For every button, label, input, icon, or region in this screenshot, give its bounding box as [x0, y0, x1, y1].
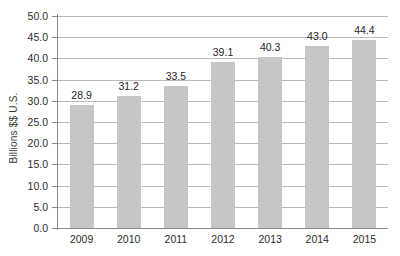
bar-value-label: 40.3	[260, 41, 280, 53]
bar	[70, 105, 94, 228]
gridline	[58, 228, 388, 229]
bar	[211, 62, 235, 228]
y-tick-label: 0.0	[2, 222, 48, 234]
y-tick-label: 45.0	[2, 31, 48, 43]
x-tick-label: 2010	[117, 233, 140, 245]
gridline	[58, 58, 388, 59]
bar-value-label: 33.5	[166, 70, 186, 82]
gridline	[58, 16, 388, 17]
y-tick-label: 30.0	[2, 95, 48, 107]
bar-value-label: 43.0	[307, 30, 327, 42]
x-tick-label: 2012	[211, 233, 234, 245]
bar	[117, 96, 141, 228]
y-tick-label: 20.0	[2, 137, 48, 149]
bar-chart: Billions $$ U.S. 50.045.040.035.030.025.…	[0, 0, 400, 256]
x-tick-label: 2009	[70, 233, 93, 245]
x-tick-label: 2014	[306, 233, 329, 245]
bar-value-label: 39.1	[213, 46, 233, 58]
y-tick-label: 35.0	[2, 74, 48, 86]
bar-value-label: 44.4	[354, 24, 374, 36]
y-tick-label: 10.0	[2, 180, 48, 192]
bar-value-label: 28.9	[71, 89, 91, 101]
x-tick-label: 2013	[258, 233, 281, 245]
y-tick-label: 15.0	[2, 158, 48, 170]
y-tick-label: 5.0	[2, 201, 48, 213]
y-tick-label: 25.0	[2, 116, 48, 128]
y-tick-label: 40.0	[2, 52, 48, 64]
bar	[352, 40, 376, 228]
bar	[305, 46, 329, 228]
bar	[258, 57, 282, 228]
x-tick-label: 2015	[353, 233, 376, 245]
y-tick-label: 50.0	[2, 10, 48, 22]
x-tick-label: 2011	[165, 233, 188, 245]
bar	[164, 86, 188, 228]
gridline	[58, 37, 388, 38]
bar-value-label: 31.2	[118, 80, 138, 92]
